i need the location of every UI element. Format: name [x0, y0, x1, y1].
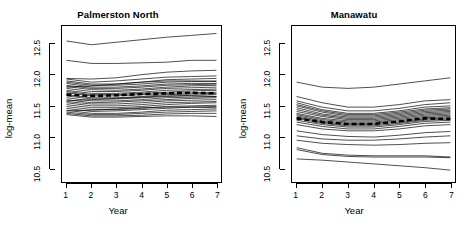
- y-axis-label: log-mean: [236, 0, 250, 237]
- x-axis-tick: [66, 183, 67, 188]
- y-axis-tick-label: 12.0: [37, 79, 47, 96]
- x-axis-tick: [399, 183, 400, 188]
- x-axis-tick-label: 7: [210, 190, 224, 200]
- y-axis-tick-label: 12.0: [267, 79, 277, 96]
- x-axis-tick-label: 3: [109, 190, 123, 200]
- y-axis: 10.511.011.512.012.5: [48, 25, 50, 183]
- y-axis-tick-label: 10.5: [37, 174, 47, 191]
- panel-title: Manawatu: [236, 9, 472, 20]
- x-axis-tick: [192, 183, 193, 188]
- x-axis-tick-label: 3: [341, 190, 355, 200]
- x-axis-tick-label: 7: [444, 190, 458, 200]
- x-axis-tick: [451, 183, 452, 188]
- x-axis-tick-label: 1: [59, 190, 73, 200]
- series-line: [297, 131, 451, 137]
- y-axis-tick: [280, 43, 285, 44]
- panel-manawatu: Manawatu log-mean 10.511.011.512.012.5 1…: [236, 0, 472, 237]
- y-axis-tick-label: 11.0: [267, 142, 277, 158]
- plot-lines: [292, 26, 455, 182]
- y-axis-tick-label: 10.5: [267, 174, 277, 191]
- y-axis-tick: [280, 106, 285, 107]
- x-axis-tick-label: 5: [392, 190, 406, 200]
- x-axis-tick: [425, 183, 426, 188]
- x-axis-tick: [296, 183, 297, 188]
- series-line: [297, 159, 451, 170]
- y-axis-tick-label: 11.5: [37, 111, 47, 127]
- series-line: [297, 78, 451, 89]
- y-axis-tick-label: 12.5: [267, 48, 277, 65]
- series-line: [67, 33, 217, 44]
- y-axis-tick-label: 12.5: [37, 48, 47, 65]
- x-axis-label: Year: [236, 205, 472, 216]
- plot-area: [61, 25, 222, 183]
- x-axis-tick-label: 6: [418, 190, 432, 200]
- series-line: [67, 60, 217, 63]
- x-axis-label: Year: [0, 205, 236, 216]
- series-line: [297, 148, 451, 157]
- y-axis-tick-label: 11.5: [267, 111, 277, 127]
- y-axis-tick: [50, 106, 55, 107]
- series-line: [297, 136, 451, 140]
- x-axis-tick: [167, 183, 168, 188]
- y-axis-tick: [50, 169, 55, 170]
- series-line: [297, 140, 451, 145]
- y-axis: 10.511.011.512.012.5: [278, 25, 280, 183]
- x-axis-tick-label: 2: [84, 190, 98, 200]
- y-axis-tick-label: 11.0: [37, 142, 47, 158]
- x-axis-tick: [116, 183, 117, 188]
- series-line: [297, 97, 451, 108]
- y-axis-tick: [50, 137, 55, 138]
- x-axis-tick-label: 1: [289, 190, 303, 200]
- figure-canvas: Palmerston North log-mean 10.511.011.512…: [0, 0, 473, 237]
- panel-title: Palmerston North: [0, 9, 236, 20]
- x-axis: 1234567: [291, 183, 456, 185]
- y-axis-tick: [50, 43, 55, 44]
- series-line: [67, 70, 217, 79]
- x-axis-tick-label: 5: [160, 190, 174, 200]
- plot-lines: [62, 26, 221, 182]
- plot-area: [291, 25, 456, 183]
- y-axis-tick: [50, 74, 55, 75]
- y-axis-tick: [280, 137, 285, 138]
- x-axis-tick: [374, 183, 375, 188]
- x-axis-tick: [91, 183, 92, 188]
- x-axis-tick: [217, 183, 218, 188]
- y-axis-tick: [280, 74, 285, 75]
- series-line: [297, 150, 451, 158]
- x-axis-tick-label: 2: [315, 190, 329, 200]
- x-axis-tick: [348, 183, 349, 188]
- y-axis-label: log-mean: [2, 0, 16, 237]
- panel-palmerston-north: Palmerston North log-mean 10.511.011.512…: [0, 0, 236, 237]
- x-axis-tick-label: 6: [185, 190, 199, 200]
- y-axis-tick: [280, 169, 285, 170]
- x-axis-tick-label: 4: [135, 190, 149, 200]
- x-axis-tick: [142, 183, 143, 188]
- x-axis-tick-label: 4: [367, 190, 381, 200]
- x-axis-tick: [322, 183, 323, 188]
- x-axis: 1234567: [61, 183, 222, 185]
